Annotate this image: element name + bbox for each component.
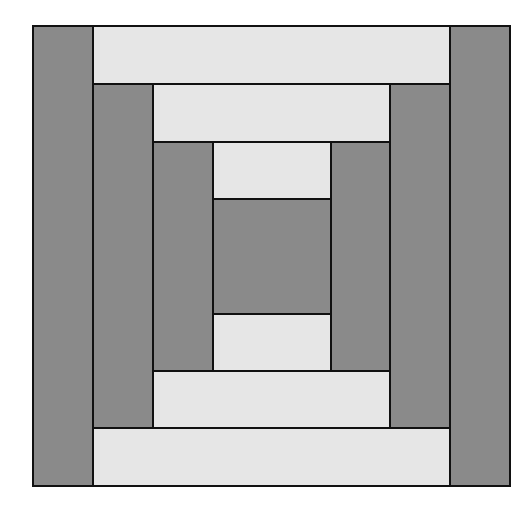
piece-mid-right: [389, 83, 451, 429]
piece-outer-bottom: [92, 427, 451, 487]
piece-mid-bottom: [152, 370, 391, 429]
piece-outer-top: [92, 25, 451, 85]
piece-outer-left: [32, 25, 94, 487]
piece-inner-bottom: [212, 313, 332, 372]
piece-inner-right: [330, 141, 391, 372]
piece-inner-top: [212, 141, 332, 200]
piece-center: [212, 198, 332, 315]
piece-mid-top: [152, 83, 391, 143]
piece-outer-right: [449, 25, 511, 487]
piece-inner-left: [152, 141, 214, 372]
piece-mid-left: [92, 83, 154, 429]
